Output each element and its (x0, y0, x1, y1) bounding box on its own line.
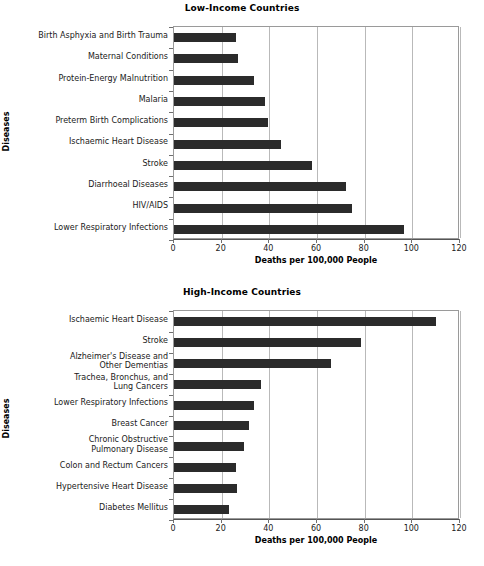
y-axis-tick (169, 155, 173, 156)
chart-low-income-countries: Low-Income Countries Birth Asphyxia and … (0, 0, 484, 283)
plot-area (173, 26, 459, 239)
y-axis-tick (169, 197, 173, 198)
y-axis-label: Trachea, Bronchus, and Lung Cancers (74, 373, 168, 392)
bar-row (174, 76, 458, 85)
x-axis-tick (316, 519, 317, 523)
y-axis-label: Maternal Conditions (88, 52, 168, 62)
y-axis-label: Chronic Obstructive Pulmonary Disease (89, 435, 168, 454)
chart-high-income-countries: High-Income Countries Ischaemic Heart Di… (0, 283, 484, 566)
y-axis-tick (169, 332, 173, 333)
x-axis-title: Deaths per 100,000 People (173, 256, 459, 265)
x-axis-tick-label: 0 (170, 244, 175, 253)
y-axis-label: Ischaemic Heart Disease (69, 315, 168, 325)
y-axis-tick (169, 353, 173, 354)
x-axis-tick (459, 519, 460, 523)
y-axis-tick (169, 176, 173, 177)
x-axis-tick (221, 239, 222, 243)
bar (174, 54, 238, 63)
bar-row (174, 161, 458, 170)
x-axis-title: Deaths per 100,000 People (173, 536, 459, 545)
bar-row (174, 204, 458, 213)
bar (174, 97, 265, 106)
x-axis-tick-label: 60 (311, 524, 321, 533)
bar-row (174, 442, 458, 451)
y-axis-label: Stroke (143, 159, 169, 169)
chart-title: Low-Income Countries (0, 3, 484, 13)
y-axis-title: Diseases (2, 399, 11, 439)
y-axis-tick (169, 311, 173, 312)
y-axis-tick (169, 457, 173, 458)
x-axis: 020406080100120 (173, 239, 459, 240)
y-axis-tick (169, 112, 173, 113)
y-axis-label: Birth Asphyxia and Birth Trauma (38, 31, 168, 41)
bar-row (174, 140, 458, 149)
bar-row (174, 421, 458, 430)
bar-row (174, 338, 458, 347)
x-axis-tick-label: 120 (451, 244, 466, 253)
x-axis-tick (268, 519, 269, 523)
y-axis-tick (169, 374, 173, 375)
y-axis-label: HIV/AIDS (132, 201, 168, 211)
bar (174, 463, 236, 472)
x-axis-tick (411, 239, 412, 243)
x-axis-tick-label: 40 (263, 524, 273, 533)
y-axis-label: Lower Respiratory Infections (54, 223, 168, 233)
bar-row (174, 33, 458, 42)
x-axis-tick-label: 0 (170, 524, 175, 533)
y-axis-tick (169, 499, 173, 500)
bar-row (174, 118, 458, 127)
x-axis-tick (173, 239, 174, 243)
x-axis-tick-label: 20 (216, 244, 226, 253)
bar (174, 225, 404, 234)
bar (174, 204, 352, 213)
x-axis: 020406080100120 (173, 519, 459, 520)
x-axis-tick-label: 20 (216, 524, 226, 533)
y-axis-tick (169, 70, 173, 71)
bar (174, 33, 236, 42)
bar-row (174, 380, 458, 389)
y-axis-label: Breast Cancer (112, 419, 168, 429)
bar-row (174, 317, 458, 326)
y-axis-label: Alzheimer's Disease and Other Dementias (70, 352, 168, 371)
bar (174, 182, 346, 191)
x-axis-tick (459, 239, 460, 243)
bar-row (174, 463, 458, 472)
bar (174, 380, 261, 389)
bar (174, 76, 254, 85)
bar-row (174, 484, 458, 493)
bar (174, 359, 331, 368)
x-axis-tick-label: 60 (311, 244, 321, 253)
x-axis-tick (411, 519, 412, 523)
bar (174, 317, 436, 326)
y-axis-title: Diseases (2, 112, 11, 152)
bar (174, 401, 254, 410)
bar (174, 118, 268, 127)
plot-area (173, 310, 459, 519)
y-axis-tick (169, 436, 173, 437)
x-axis-tick (268, 239, 269, 243)
x-axis-tick (364, 239, 365, 243)
x-axis-tick-label: 80 (359, 524, 369, 533)
y-axis-label: Colon and Rectum Cancers (60, 461, 168, 471)
gridline (460, 27, 461, 238)
bar-row (174, 97, 458, 106)
bar-row (174, 225, 458, 234)
y-axis-label: Malaria (139, 95, 168, 105)
bar-row (174, 505, 458, 514)
bar (174, 505, 229, 514)
bar-row (174, 182, 458, 191)
x-axis-tick (173, 519, 174, 523)
chart-title: High-Income Countries (0, 287, 484, 297)
y-axis-category-labels: Birth Asphyxia and Birth TraumaMaternal … (0, 26, 168, 239)
x-axis-tick-label: 100 (404, 524, 419, 533)
x-axis-tick-label: 100 (404, 244, 419, 253)
y-axis-label: Hypertensive Heart Disease (56, 482, 168, 492)
y-axis-label: Stroke (143, 336, 169, 346)
x-axis-tick-label: 40 (263, 244, 273, 253)
y-axis-tick (169, 416, 173, 417)
bar (174, 442, 244, 451)
bar (174, 338, 361, 347)
y-axis-label: Diabetes Mellitus (99, 503, 168, 513)
y-axis-label: Diarrhoeal Diseases (88, 180, 168, 190)
x-axis-tick-label: 120 (451, 524, 466, 533)
